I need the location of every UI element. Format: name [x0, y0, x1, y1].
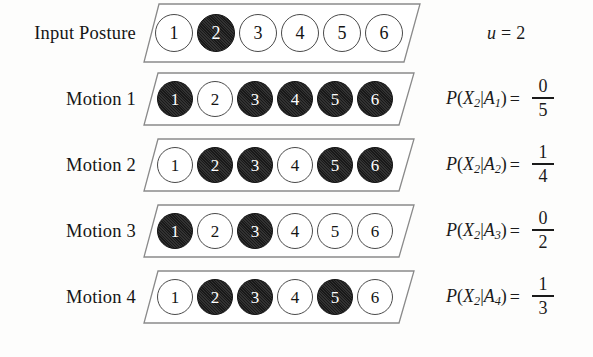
fraction-numerator-3: 0: [539, 209, 548, 229]
probability-formula-3: P(X2|A3) = 0 2: [446, 198, 554, 264]
probability-formula-2: P(X2|A2) = 1 4: [446, 132, 554, 198]
fraction-denominator-2: 4: [539, 165, 548, 185]
node-5[interactable]: 5: [323, 14, 361, 52]
input-posture-nodes: 1 2 3 4 5 6: [155, 2, 403, 64]
node-1[interactable]: 1: [157, 279, 193, 315]
node-6[interactable]: 6: [357, 147, 393, 183]
node-3[interactable]: 3: [237, 147, 273, 183]
formula-fraction-2: 1 4: [532, 143, 554, 184]
motion-row-2: Motion 2 1 2 3 4 5 6 P(X2|A2) = 1 4: [0, 132, 593, 198]
node-4[interactable]: 4: [277, 279, 313, 315]
formula-expression-1: P(X2|A1): [446, 88, 507, 111]
node-3[interactable]: 3: [237, 279, 273, 315]
motion-nodes-2: 1 2 3 4 5 6: [157, 137, 393, 193]
fraction-denominator-4: 3: [539, 297, 548, 317]
u-value-annotation: u = 2: [487, 0, 525, 66]
motion-nodes-3: 1 2 3 4 5 6: [157, 203, 393, 259]
motion-label-1: Motion 1: [0, 66, 136, 132]
node-1[interactable]: 1: [157, 213, 193, 249]
input-posture-label: Input Posture: [0, 0, 136, 66]
fraction-numerator-1: 0: [539, 77, 548, 97]
formula-expression-3: P(X2|A3): [446, 220, 507, 243]
motion-band-3: 1 2 3 4 5 6: [143, 203, 408, 259]
formula-equals-2: =: [510, 155, 520, 176]
node-2[interactable]: 2: [197, 81, 233, 117]
u-equals-sign: =: [501, 23, 511, 44]
node-6[interactable]: 6: [365, 14, 403, 52]
node-4[interactable]: 4: [277, 213, 313, 249]
fraction-denominator-1: 5: [539, 99, 548, 119]
node-6[interactable]: 6: [357, 279, 393, 315]
fraction-numerator-2: 1: [539, 143, 548, 163]
node-4[interactable]: 4: [281, 14, 319, 52]
u-value: 2: [516, 23, 525, 44]
motion-row-4: Motion 4 1 2 3 4 5 6 P(X2|A4) = 1 3: [0, 264, 593, 330]
u-variable: u: [487, 23, 496, 44]
figure-canvas: Input Posture 1 2 3 4 5 6 u = 2 Motion 1: [0, 0, 593, 357]
node-5[interactable]: 5: [317, 147, 353, 183]
motion-label-2: Motion 2: [0, 132, 136, 198]
node-1[interactable]: 1: [155, 14, 193, 52]
input-posture-row: Input Posture 1 2 3 4 5 6 u = 2: [0, 0, 593, 66]
formula-equals-4: =: [510, 287, 520, 308]
node-1[interactable]: 1: [157, 81, 193, 117]
node-5[interactable]: 5: [317, 81, 353, 117]
motion-row-1: Motion 1 1 2 3 4 5 6 P(X2|A1) = 0 5: [0, 66, 593, 132]
probability-formula-4: P(X2|A4) = 1 3: [446, 264, 554, 330]
motion-nodes-4: 1 2 3 4 5 6: [157, 269, 393, 325]
input-posture-band: 1 2 3 4 5 6: [143, 2, 408, 64]
node-1[interactable]: 1: [157, 147, 193, 183]
motion-label-3: Motion 3: [0, 198, 136, 264]
formula-expression-2: P(X2|A2): [446, 154, 507, 177]
node-2[interactable]: 2: [197, 147, 233, 183]
formula-fraction-4: 1 3: [532, 275, 554, 316]
formula-expression-4: P(X2|A4): [446, 286, 507, 309]
motion-label-4: Motion 4: [0, 264, 136, 330]
motion-nodes-1: 1 2 3 4 5 6: [157, 71, 393, 127]
motion-row-3: Motion 3 1 2 3 4 5 6 P(X2|A3) = 0 2: [0, 198, 593, 264]
node-5[interactable]: 5: [317, 279, 353, 315]
node-5[interactable]: 5: [317, 213, 353, 249]
motion-band-1: 1 2 3 4 5 6: [143, 71, 408, 127]
fraction-numerator-4: 1: [539, 275, 548, 295]
formula-equals-1: =: [510, 89, 520, 110]
motion-band-2: 1 2 3 4 5 6: [143, 137, 408, 193]
formula-fraction-1: 0 5: [532, 77, 554, 118]
fraction-denominator-3: 2: [539, 231, 548, 251]
node-3[interactable]: 3: [237, 81, 273, 117]
node-3[interactable]: 3: [239, 14, 277, 52]
node-6[interactable]: 6: [357, 213, 393, 249]
node-4[interactable]: 4: [277, 147, 313, 183]
node-6[interactable]: 6: [357, 81, 393, 117]
formula-equals-3: =: [510, 221, 520, 242]
node-4[interactable]: 4: [277, 81, 313, 117]
formula-fraction-3: 0 2: [532, 209, 554, 250]
node-2[interactable]: 2: [197, 14, 235, 52]
node-2[interactable]: 2: [197, 279, 233, 315]
motion-band-4: 1 2 3 4 5 6: [143, 269, 408, 325]
probability-formula-1: P(X2|A1) = 0 5: [446, 66, 554, 132]
node-2[interactable]: 2: [197, 213, 233, 249]
node-3[interactable]: 3: [237, 213, 273, 249]
